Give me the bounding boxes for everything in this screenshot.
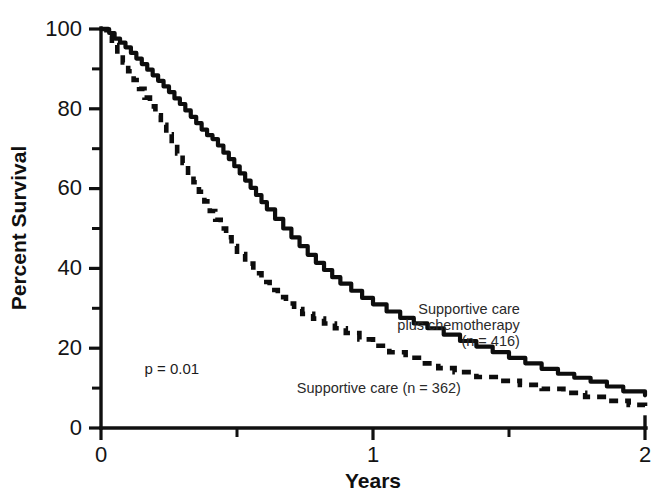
x-tick-label: 1 — [367, 442, 379, 467]
y-axis-title: Percent Survival — [7, 146, 30, 311]
y-tick-label: 0 — [70, 415, 82, 440]
annotation-p-value: p = 0.01 — [145, 360, 200, 377]
annotation-supportive-care-label: Supportive care (n = 362) — [297, 380, 461, 396]
series-line-supportive-care — [101, 29, 645, 408]
x-tick-label: 0 — [95, 442, 107, 467]
x-axis-title: Years — [345, 469, 401, 492]
chart-canvas: 020406080100012 p = 0.01Supportive care … — [0, 0, 660, 497]
annotation-chemo-label-line3: (n = 416) — [461, 333, 519, 349]
annotation-chemo-label-line1: Supportive care — [418, 301, 520, 317]
axis-tick-labels: 020406080100012 — [45, 16, 651, 467]
chart-annotations: p = 0.01Supportive care (n = 362)Support… — [145, 301, 521, 396]
y-tick-label: 20 — [58, 335, 82, 360]
survival-chart: 020406080100012 p = 0.01Supportive care … — [0, 0, 660, 497]
x-tick-label: 2 — [639, 442, 651, 467]
y-tick-label: 100 — [45, 16, 82, 41]
data-series — [101, 29, 645, 408]
y-tick-label: 60 — [58, 175, 82, 200]
y-tick-label: 80 — [58, 96, 82, 121]
y-tick-label: 40 — [58, 255, 82, 280]
annotation-chemo-label-line2: plus chemotherapy — [397, 317, 520, 333]
